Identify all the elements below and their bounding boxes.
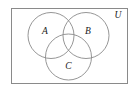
label-set-a: A bbox=[41, 26, 48, 36]
circle-set-a bbox=[28, 13, 74, 59]
venn-diagram-figure: A B C U bbox=[0, 0, 137, 91]
label-universal-set: U bbox=[115, 10, 123, 20]
circle-set-c bbox=[46, 34, 92, 80]
venn-diagram-canvas: A B C U bbox=[0, 0, 137, 91]
label-set-b: B bbox=[85, 26, 91, 36]
label-set-c: C bbox=[65, 61, 72, 71]
